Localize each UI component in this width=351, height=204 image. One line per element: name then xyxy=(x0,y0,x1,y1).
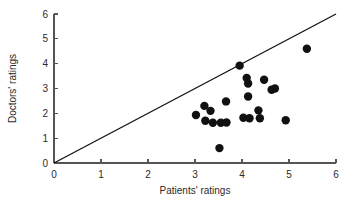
data-point xyxy=(222,97,230,105)
data-point xyxy=(222,118,230,126)
x-tick-label-5: 5 xyxy=(286,169,292,180)
y-axis-title: Doctors' ratings xyxy=(7,54,18,123)
x-tick-label-0: 0 xyxy=(51,169,57,180)
x-tick-label-1: 1 xyxy=(98,169,104,180)
data-point xyxy=(192,111,200,119)
data-point xyxy=(260,76,268,84)
y-tick-label-0: 0 xyxy=(42,158,48,169)
data-point xyxy=(282,116,290,124)
data-point xyxy=(245,114,253,122)
data-point xyxy=(244,92,252,100)
x-axis-ticks xyxy=(54,159,336,163)
scatter-plot-figure: 0 1 2 3 4 5 6 0 1 2 3 4 5 6 xyxy=(0,0,351,204)
y-tick-label-4: 4 xyxy=(42,58,48,69)
data-point xyxy=(235,61,243,69)
y-tick-label-5: 5 xyxy=(42,33,48,44)
data-point xyxy=(215,144,223,152)
data-point xyxy=(256,114,264,122)
y-tick-label-2: 2 xyxy=(42,108,48,119)
data-point xyxy=(244,79,252,87)
x-tick-label-4: 4 xyxy=(239,169,245,180)
data-points-layer xyxy=(192,45,311,153)
x-axis-tick-labels: 0 1 2 3 4 5 6 xyxy=(51,169,339,180)
y-axis-tick-labels: 0 1 2 3 4 5 6 xyxy=(42,9,48,169)
x-tick-label-6: 6 xyxy=(333,169,339,180)
x-axis-title: Patients' ratings xyxy=(160,185,231,196)
identity-reference-line xyxy=(54,14,336,163)
y-tick-label-6: 6 xyxy=(42,9,48,20)
data-point xyxy=(206,107,214,115)
x-tick-label-2: 2 xyxy=(145,169,151,180)
y-tick-label-1: 1 xyxy=(42,133,48,144)
data-point xyxy=(254,106,262,114)
y-axis-ticks xyxy=(54,14,58,163)
data-point xyxy=(271,84,279,92)
data-point xyxy=(303,45,311,53)
data-point xyxy=(209,119,217,127)
data-point xyxy=(201,117,209,125)
y-tick-label-3: 3 xyxy=(42,83,48,94)
x-tick-label-3: 3 xyxy=(192,169,198,180)
plot-canvas: 0 1 2 3 4 5 6 0 1 2 3 4 5 6 xyxy=(0,0,351,204)
